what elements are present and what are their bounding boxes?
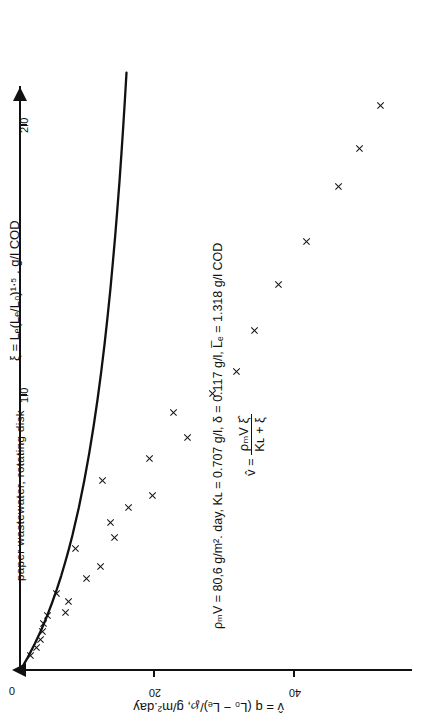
data-point: [82, 574, 91, 583]
data-point: [149, 491, 158, 500]
data-point: [170, 408, 179, 417]
data-point: [52, 589, 61, 598]
data-point: [96, 562, 105, 571]
data-point: [72, 544, 81, 553]
data-point: [32, 643, 41, 652]
data-point: [124, 503, 133, 512]
data-point: [98, 476, 107, 485]
data-point: [37, 635, 46, 644]
data-point: [233, 367, 242, 376]
data-point: [275, 280, 284, 289]
data-point: [26, 652, 35, 661]
data-point: [65, 597, 74, 606]
data-point: [334, 182, 343, 191]
data-point: [208, 389, 217, 398]
data-point: [145, 454, 154, 463]
data-point: [39, 619, 48, 628]
data-point: [303, 237, 312, 246]
data-point: [44, 611, 53, 620]
data-point: [376, 101, 385, 110]
data-point: [38, 627, 47, 636]
figure-canvas: 40 20 0 1.0 2.0 v̂ = q (L₀ − Lₑ)/℘, g/m²…: [0, 0, 432, 721]
data-point: [110, 533, 119, 542]
data-point: [355, 144, 364, 153]
data-point: [61, 608, 70, 617]
data-point: [250, 327, 259, 336]
data-point: [107, 518, 116, 527]
data-point: [184, 433, 193, 442]
